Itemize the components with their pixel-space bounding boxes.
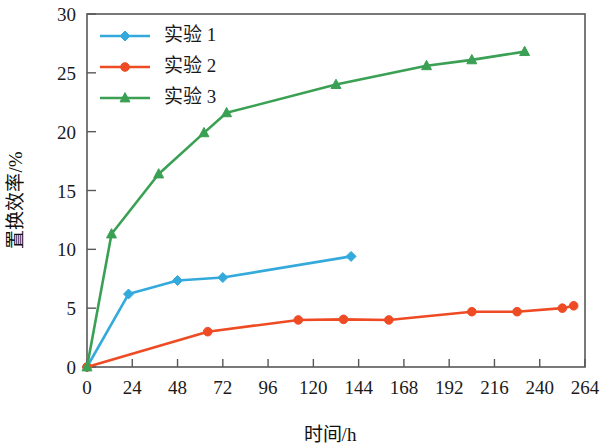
y-tick-label: 25 (57, 63, 76, 84)
data-point-marker (173, 276, 183, 286)
x-tick-label: 240 (525, 377, 554, 398)
x-axis-ticks: 024487296120144168192216240264 (82, 359, 600, 398)
legend-item-2[interactable]: 实验 2 (100, 55, 216, 76)
data-point-marker (124, 289, 134, 299)
series-line-1 (87, 256, 351, 367)
data-point-marker (203, 327, 212, 336)
x-tick-label: 96 (259, 377, 278, 398)
x-tick-label: 144 (344, 377, 373, 398)
data-series-group (82, 46, 578, 372)
data-point-marker (558, 304, 567, 313)
data-point-marker (339, 315, 348, 324)
data-point-marker (569, 302, 578, 311)
y-tick-label: 0 (67, 357, 77, 378)
line-chart: 024487296120144168192216240264 051015202… (0, 0, 600, 448)
chart-legend: 实验 1实验 2实验 3 (100, 24, 216, 107)
series-3 (82, 46, 530, 371)
legend-label: 实验 3 (164, 86, 216, 107)
y-axis-title: 置换效率/% (5, 151, 26, 248)
series-line-2 (87, 306, 574, 367)
x-tick-label: 48 (168, 377, 187, 398)
legend-label: 实验 2 (164, 55, 216, 76)
data-point-marker (468, 307, 477, 316)
legend-label: 实验 1 (164, 24, 216, 45)
y-tick-label: 5 (67, 298, 77, 319)
legend-item-1[interactable]: 实验 1 (100, 24, 216, 45)
x-tick-label: 264 (571, 377, 600, 398)
series-2 (83, 302, 578, 372)
series-1 (82, 251, 356, 372)
x-tick-label: 216 (480, 377, 509, 398)
x-tick-label: 168 (390, 377, 419, 398)
x-tick-label: 24 (123, 377, 143, 398)
data-point-marker (513, 307, 522, 316)
y-tick-label: 30 (57, 4, 76, 25)
legend-item-3[interactable]: 实验 3 (100, 86, 216, 107)
x-tick-label: 0 (82, 377, 92, 398)
x-tick-label: 72 (213, 377, 232, 398)
data-point-marker (294, 316, 303, 325)
plot-frame (87, 14, 585, 367)
data-point-marker (346, 251, 356, 261)
y-tick-label: 10 (57, 239, 76, 260)
legend-marker (120, 31, 130, 41)
legend-marker (121, 63, 130, 72)
y-axis-ticks: 051015202530 (57, 4, 96, 378)
x-tick-label: 192 (435, 377, 464, 398)
data-point-marker (218, 273, 228, 283)
chart-container: 024487296120144168192216240264 051015202… (0, 0, 600, 448)
x-tick-label: 120 (299, 377, 328, 398)
data-point-marker (385, 316, 394, 325)
y-tick-label: 20 (57, 122, 76, 143)
y-tick-label: 15 (57, 181, 76, 202)
x-axis-title: 时间/h (304, 424, 357, 445)
